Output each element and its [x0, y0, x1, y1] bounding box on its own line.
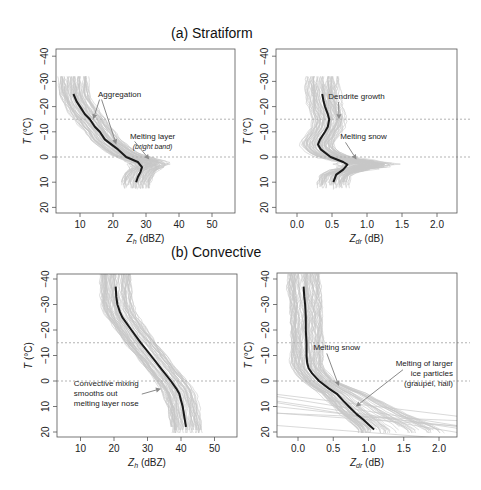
- y-tick-label: 0: [260, 378, 271, 384]
- x-tick-label: 0.5: [325, 219, 339, 230]
- y-tick-label: −30: [40, 296, 51, 313]
- y-tick-label: −40: [260, 270, 271, 287]
- y-tick-label: 0: [40, 378, 51, 384]
- svg-text:Dendrite growth: Dendrite growth: [328, 92, 384, 101]
- svg-text:(bright band): (bright band): [133, 143, 173, 151]
- svg-text:(graupel, hail): (graupel, hail): [404, 379, 453, 388]
- y-tick-label: −30: [260, 296, 271, 313]
- x-tick-label: 40: [173, 219, 185, 230]
- x-tick-label: 50: [209, 443, 221, 454]
- x-tick-label: 1.5: [395, 219, 409, 230]
- y-tick-label: 20: [260, 426, 271, 438]
- x-tick-label: 50: [206, 219, 218, 230]
- y-tick-label: −20: [40, 321, 51, 338]
- x-axis-label: Zdr (dB): [349, 457, 384, 469]
- y-tick-label: −20: [260, 321, 271, 338]
- x-tick-label: 1.0: [362, 443, 376, 454]
- chart-panel-stratiform-zdr: 0.00.51.01.52.0Zdr (dB)−40−30−20−1001020…: [242, 47, 470, 245]
- y-tick-label: −30: [39, 72, 50, 89]
- y-tick-label: 10: [259, 176, 270, 188]
- x-tick-label: 40: [175, 443, 187, 454]
- y-tick-label: −20: [259, 98, 270, 115]
- x-tick-label: 20: [108, 443, 120, 454]
- chart-canvas: 1020304050Zh (dBZ)−40−30−20−1001020T (°C…: [0, 0, 481, 490]
- y-tick-label: 20: [40, 426, 51, 438]
- y-tick-label: 20: [259, 201, 270, 213]
- x-tick-label: 10: [75, 443, 87, 454]
- svg-text:smooths out: smooths out: [74, 389, 118, 398]
- svg-text:Aggregation: Aggregation: [98, 90, 141, 99]
- svg-text:Melting snow: Melting snow: [313, 343, 360, 352]
- y-axis-label: T (°C): [23, 342, 34, 369]
- plot-frame: [56, 49, 235, 213]
- y-tick-label: −30: [259, 72, 270, 89]
- y-tick-label: −10: [260, 347, 271, 364]
- y-tick-label: −10: [40, 347, 51, 364]
- y-tick-label: 0: [39, 154, 50, 160]
- x-tick-label: 10: [74, 219, 86, 230]
- y-tick-label: −40: [259, 47, 270, 64]
- y-tick-label: −40: [40, 270, 51, 287]
- x-axis-label: Zh (dBZ): [127, 457, 166, 469]
- y-tick-label: 0: [259, 154, 270, 160]
- chart-panel-convective-zh: 1020304050Zh (dBZ)−40−30−20−1001020T (°C…: [23, 270, 237, 469]
- x-tick-label: 2.0: [432, 443, 446, 454]
- y-axis-label: T (°C): [243, 342, 254, 369]
- x-tick-label: 30: [142, 443, 154, 454]
- y-axis-label: T (°C): [22, 118, 33, 145]
- ensemble-profiles: [99, 274, 202, 433]
- x-tick-label: 0.0: [290, 219, 304, 230]
- svg-text:Melting of larger: Melting of larger: [396, 359, 454, 368]
- plot-frame: [276, 49, 457, 213]
- y-tick-label: 10: [40, 401, 51, 413]
- x-tick-label: 0.0: [291, 443, 305, 454]
- y-tick-label: 10: [260, 401, 271, 413]
- x-axis-label: Zh (dBZ): [126, 233, 165, 245]
- svg-text:Melting layer: Melting layer: [130, 132, 176, 141]
- y-tick-label: −10: [39, 123, 50, 140]
- x-tick-label: 1.5: [397, 443, 411, 454]
- y-tick-label: 10: [39, 176, 50, 188]
- x-tick-label: 1.0: [360, 219, 374, 230]
- x-axis-label: Zdr (dB): [348, 233, 383, 245]
- annotation: Convective mixingsmooths outmelting laye…: [74, 379, 161, 408]
- x-tick-label: 20: [107, 219, 119, 230]
- svg-text:Melting snow: Melting snow: [340, 132, 387, 141]
- y-tick-label: −20: [39, 98, 50, 115]
- y-tick-label: −40: [39, 47, 50, 64]
- x-tick-label: 2.0: [430, 219, 444, 230]
- y-tick-label: −10: [259, 123, 270, 140]
- svg-text:Convective mixing: Convective mixing: [74, 379, 139, 388]
- x-tick-label: 30: [140, 219, 152, 230]
- y-axis-label: T (°C): [242, 118, 253, 145]
- x-tick-label: 0.5: [326, 443, 340, 454]
- chart-panel-convective-zdr: 0.00.51.01.52.0Zdr (dB)−40−30−20−1001020…: [243, 270, 470, 469]
- svg-text:melting layer nose: melting layer nose: [74, 399, 139, 408]
- y-tick-label: 20: [39, 201, 50, 213]
- svg-text:ice particles: ice particles: [411, 369, 453, 378]
- chart-panel-stratiform-zh: 1020304050Zh (dBZ)−40−30−20−1001020T (°C…: [22, 47, 235, 245]
